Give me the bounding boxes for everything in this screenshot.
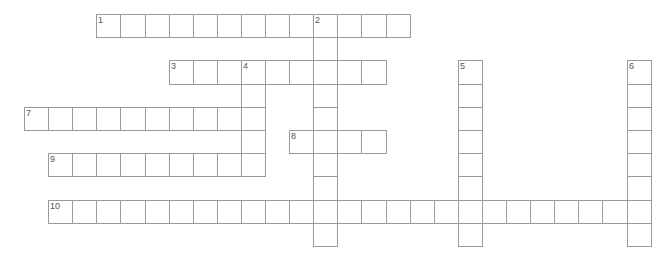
crossword-cell[interactable] (217, 107, 242, 131)
crossword-cell[interactable] (458, 223, 483, 247)
crossword-cell[interactable] (627, 223, 652, 247)
crossword-cell[interactable] (193, 153, 218, 177)
crossword-cell[interactable] (120, 14, 146, 38)
crossword-cell[interactable] (627, 200, 652, 224)
crossword-cell[interactable] (193, 107, 218, 131)
crossword-cell[interactable] (313, 223, 338, 247)
crossword-cell[interactable] (458, 200, 483, 224)
crossword-cell[interactable] (96, 200, 121, 224)
crossword-cell[interactable]: 4 (241, 60, 266, 85)
crossword-cell[interactable] (96, 107, 121, 131)
crossword-cell[interactable] (458, 130, 483, 154)
crossword-cell[interactable] (241, 200, 266, 224)
crossword-cell[interactable] (410, 200, 435, 224)
crossword-cell[interactable] (434, 200, 459, 224)
crossword-cell[interactable] (530, 200, 555, 224)
crossword-cell[interactable] (241, 107, 266, 131)
crossword-cell[interactable] (313, 130, 338, 154)
crossword-cell[interactable] (145, 107, 170, 131)
crossword-cell[interactable] (265, 200, 290, 224)
crossword-cell[interactable] (169, 107, 194, 131)
clue-number-label: 5 (460, 61, 465, 71)
crossword-cell[interactable] (48, 107, 73, 131)
crossword-cell[interactable] (313, 84, 338, 108)
crossword-cell[interactable] (169, 14, 194, 38)
crossword-cell[interactable] (193, 200, 218, 224)
crossword-cell[interactable]: 1 (96, 14, 121, 38)
crossword-cell[interactable] (72, 153, 97, 177)
crossword-cell[interactable] (120, 153, 146, 177)
crossword-cell[interactable] (217, 60, 242, 85)
crossword-cell[interactable] (386, 14, 411, 38)
clue-number-label: 9 (50, 154, 55, 164)
crossword-cell[interactable] (145, 153, 170, 177)
crossword-cell[interactable] (313, 37, 338, 61)
crossword-grid: 12345678910 (0, 0, 668, 258)
crossword-cell[interactable]: 9 (48, 153, 73, 177)
crossword-cell[interactable] (458, 107, 483, 131)
crossword-cell[interactable]: 5 (458, 60, 483, 85)
crossword-cell[interactable] (337, 14, 362, 38)
crossword-cell[interactable] (458, 153, 483, 177)
crossword-cell[interactable] (193, 14, 218, 38)
crossword-cell[interactable] (289, 60, 314, 85)
crossword-cell[interactable] (506, 200, 531, 224)
crossword-cell[interactable] (313, 60, 338, 85)
crossword-cell[interactable] (217, 153, 242, 177)
crossword-cell[interactable] (241, 84, 266, 108)
crossword-cell[interactable]: 7 (24, 107, 49, 131)
crossword-cell[interactable]: 6 (627, 60, 652, 85)
crossword-cell[interactable] (313, 107, 338, 131)
crossword-cell[interactable]: 8 (289, 130, 314, 154)
crossword-cell[interactable] (458, 84, 483, 108)
crossword-cell[interactable] (145, 200, 170, 224)
crossword-cell[interactable] (120, 107, 146, 131)
crossword-cell[interactable] (361, 200, 387, 224)
crossword-cell[interactable] (361, 60, 387, 85)
crossword-cell[interactable] (627, 176, 652, 201)
clue-number-label: 10 (50, 201, 60, 211)
crossword-cell[interactable]: 3 (169, 60, 194, 85)
clue-number-label: 6 (629, 61, 634, 71)
crossword-cell[interactable] (554, 200, 579, 224)
crossword-cell[interactable] (289, 14, 314, 38)
crossword-cell[interactable] (627, 84, 652, 108)
crossword-cell[interactable]: 2 (313, 14, 338, 38)
crossword-cell[interactable] (337, 60, 362, 85)
crossword-cell[interactable] (265, 14, 290, 38)
crossword-cell[interactable] (72, 107, 97, 131)
crossword-cell[interactable] (145, 14, 170, 38)
crossword-cell[interactable] (337, 200, 362, 224)
crossword-cell[interactable] (386, 200, 411, 224)
crossword-cell[interactable] (337, 130, 362, 154)
crossword-cell[interactable] (313, 200, 338, 224)
crossword-cell[interactable] (241, 14, 266, 38)
crossword-cell[interactable] (313, 153, 338, 177)
crossword-cell[interactable] (627, 153, 652, 177)
crossword-cell[interactable] (265, 60, 290, 85)
crossword-cell[interactable] (313, 176, 338, 201)
crossword-cell[interactable] (458, 176, 483, 201)
crossword-cell[interactable] (361, 130, 387, 154)
crossword-cell[interactable] (578, 200, 603, 224)
crossword-cell[interactable] (96, 153, 121, 177)
crossword-cell[interactable] (217, 14, 242, 38)
crossword-cell[interactable]: 10 (48, 200, 73, 224)
clue-number-label: 1 (98, 15, 103, 25)
crossword-cell[interactable] (72, 200, 97, 224)
crossword-cell[interactable] (217, 200, 242, 224)
crossword-cell[interactable] (169, 153, 194, 177)
crossword-cell[interactable] (241, 130, 266, 154)
crossword-cell[interactable] (193, 60, 218, 85)
crossword-cell[interactable] (120, 200, 146, 224)
crossword-cell[interactable] (627, 130, 652, 154)
crossword-cell[interactable] (169, 200, 194, 224)
crossword-cell[interactable] (241, 153, 266, 177)
crossword-cell[interactable] (361, 14, 387, 38)
clue-number-label: 4 (243, 61, 248, 71)
crossword-cell[interactable] (602, 200, 628, 224)
crossword-cell[interactable] (289, 200, 314, 224)
clue-number-label: 3 (171, 61, 176, 71)
crossword-cell[interactable] (482, 200, 507, 224)
crossword-cell[interactable] (627, 107, 652, 131)
